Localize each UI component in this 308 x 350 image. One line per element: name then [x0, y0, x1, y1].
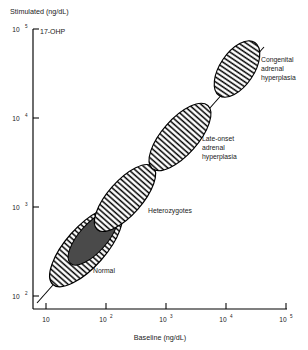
y-tick-label-mantissa: 10 [12, 26, 20, 33]
x-tick-label-mantissa: 10 [42, 316, 50, 323]
region-label-late-onset-line-3: hyperplasia [202, 153, 237, 161]
chart-annotation-17ohp: 17-OHP [40, 28, 66, 35]
y-tick-label-exponent: 4 [25, 113, 28, 118]
y-tick-label-exponent: 5 [25, 24, 28, 29]
x-tick-label-mantissa: 10 [159, 316, 167, 323]
x-tick-label-mantissa: 10 [219, 316, 227, 323]
x-tick-label-exponent: 5 [290, 314, 293, 319]
region-label-heterozygotes: Heterozygotes [148, 207, 192, 215]
y-tick-label-mantissa: 10 [12, 115, 20, 122]
x-tick-label-mantissa: 10 [99, 316, 107, 323]
chart-figure: Stimulated (ng/dL) 17-OHP 10 5 10 4 10 3… [0, 0, 308, 350]
y-tick-label-mantissa: 10 [12, 293, 20, 300]
x-tick-label-exponent: 3 [170, 314, 173, 319]
x-tick-label-exponent: 2 [110, 314, 113, 319]
region-late-onset-adrenal-hyperplasia[interactable]: Late-onset adrenal hyperplasia [139, 94, 237, 181]
y-tick-label-exponent: 3 [25, 202, 28, 207]
region-label-late-onset-line-1: Late-onset [202, 135, 234, 142]
log-log-scatter-chart: Stimulated (ng/dL) 17-OHP 10 5 10 4 10 3… [0, 0, 308, 350]
region-label-normal: Normal [93, 267, 115, 274]
region-label-late-onset-line-2: adrenal [202, 144, 225, 151]
region-heterozygotes[interactable]: Heterozygotes [84, 155, 192, 240]
x-tick-label-exponent: 4 [230, 314, 233, 319]
region-label-congenital-line-1: Congenital [261, 56, 294, 64]
region-label-congenital-line-3: hyperplasia [261, 74, 296, 82]
y-tick-label-mantissa: 10 [12, 204, 20, 211]
x-axis-title: Baseline (ng/dL) [134, 333, 186, 342]
region-ellipse-congenital[interactable] [205, 33, 269, 105]
y-axis-title: Stimulated (ng/dL) [10, 7, 69, 16]
x-tick-label-mantissa: 10 [279, 316, 287, 323]
x-axis-ticks: 10 10 2 10 3 10 4 10 5 [42, 303, 293, 323]
region-label-congenital-line-2: adrenal [261, 65, 284, 72]
y-axis-ticks: 10 5 10 4 10 3 10 2 [12, 24, 39, 300]
region-congenital-adrenal-hyperplasia[interactable]: Congenital adrenal hyperplasia [205, 33, 296, 105]
y-tick-label-exponent: 2 [25, 291, 28, 296]
